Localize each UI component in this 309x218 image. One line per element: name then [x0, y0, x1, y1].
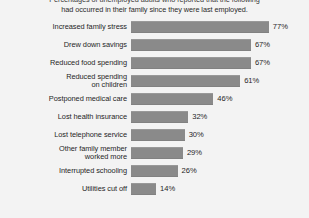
bar — [131, 165, 178, 177]
bar-value-label: 32% — [192, 113, 207, 121]
bar — [131, 57, 251, 69]
bar-value-label: 30% — [189, 131, 204, 139]
bar-track: 30% — [131, 126, 309, 144]
bar-row: Lost telephone service30% — [0, 126, 309, 144]
bar-row: Lost health insurance32% — [0, 108, 309, 126]
bar-row: Reduced spending on children61% — [0, 72, 309, 90]
category-label: Utilities cut off — [0, 185, 131, 193]
chart-title-line-1: Percentages of unemployed adults who rep… — [14, 0, 295, 5]
bar — [131, 39, 251, 51]
bar-track: 14% — [131, 180, 309, 198]
bar — [131, 129, 185, 141]
bar-track: 67% — [131, 54, 309, 72]
chart-title-line-2: had occurred in their family since they … — [14, 5, 295, 15]
category-label: Interrupted schooling — [0, 167, 131, 175]
bar-row: Drew down savings67% — [0, 36, 309, 54]
bar-value-label: 67% — [255, 41, 270, 49]
bar-value-label: 14% — [160, 185, 175, 193]
bar-row: Utilities cut off14% — [0, 180, 309, 198]
bar-row: Increased family stress77% — [0, 18, 309, 36]
category-label: Lost telephone service — [0, 131, 131, 139]
bar-value-label: 26% — [182, 167, 197, 175]
bar-track: 67% — [131, 36, 309, 54]
category-label: Reduced spending on children — [0, 73, 131, 90]
category-label: Reduced food spending — [0, 59, 131, 67]
bar — [131, 147, 183, 159]
bar — [131, 183, 156, 195]
bar-value-label: 77% — [273, 23, 288, 31]
bar-chart-figure: Percentages of unemployed adults who rep… — [0, 0, 309, 218]
category-label: Increased family stress — [0, 23, 131, 31]
bar — [131, 111, 188, 123]
category-label: Other family member worked more — [0, 145, 131, 162]
bar-track: 26% — [131, 162, 309, 180]
bar-row: Postponed medical care46% — [0, 90, 309, 108]
bar-track: 46% — [131, 90, 309, 108]
category-label: Postponed medical care — [0, 95, 131, 103]
bar-track: 29% — [131, 144, 309, 162]
bar-value-label: 61% — [244, 77, 259, 85]
category-label: Drew down savings — [0, 41, 131, 49]
bar — [131, 93, 213, 105]
bar-track: 61% — [131, 72, 309, 90]
bar-value-label: 46% — [217, 95, 232, 103]
bar — [131, 75, 240, 87]
bar — [131, 21, 269, 33]
bar-row: Reduced food spending67% — [0, 54, 309, 72]
chart-title: Percentages of unemployed adults who rep… — [0, 0, 309, 14]
bar-row: Other family member worked more29% — [0, 144, 309, 162]
bar-value-label: 67% — [255, 59, 270, 67]
plot-area: Increased family stress77%Drew down savi… — [0, 17, 309, 218]
bar-row: Interrupted schooling26% — [0, 162, 309, 180]
bar-track: 32% — [131, 108, 309, 126]
bar-track: 77% — [131, 18, 309, 36]
category-label: Lost health insurance — [0, 113, 131, 121]
bar-value-label: 29% — [187, 149, 202, 157]
